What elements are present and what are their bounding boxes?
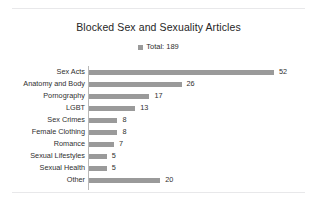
bar-row: Anatomy and Body26	[0, 78, 317, 90]
plot-area: Sex Acts52Anatomy and Body26Pornography1…	[0, 62, 317, 190]
chart-title: Blocked Sex and Sexuality Articles	[0, 21, 317, 34]
category-label: Sex Crimes	[0, 114, 85, 126]
bar-row: Sexual Health5	[0, 162, 317, 174]
bar-value-label: 5	[112, 162, 116, 174]
bar-row: Sex Crimes8	[0, 114, 317, 126]
bar-row: Sex Acts52	[0, 66, 317, 78]
bar-value-label: 5	[112, 150, 116, 162]
bar-row: LGBT13	[0, 102, 317, 114]
bar-value-label: 52	[279, 66, 287, 78]
bar-row: Other20	[0, 174, 317, 186]
bar-value-label: 8	[122, 114, 126, 126]
bar-value-label: 17	[154, 90, 162, 102]
category-label: Other	[0, 174, 85, 186]
category-label: Anatomy and Body	[0, 78, 85, 90]
bar	[89, 130, 117, 135]
bar-value-label: 13	[140, 102, 148, 114]
category-label: Pornography	[0, 90, 85, 102]
bar-row: Pornography17	[0, 90, 317, 102]
bar-value-label: 20	[165, 174, 173, 186]
category-label: Sexual Lifestyles	[0, 150, 85, 162]
category-label: Romance	[0, 138, 85, 150]
bar	[89, 142, 114, 147]
category-label: Sex Acts	[0, 66, 85, 78]
category-label: Sexual Health	[0, 162, 85, 174]
chart-figure: Blocked Sex and Sexuality Articles Total…	[0, 0, 317, 208]
bar	[89, 106, 135, 111]
bar	[89, 118, 117, 123]
bar-row: Romance7	[0, 138, 317, 150]
bar-value-label: 7	[119, 138, 123, 150]
bar	[89, 166, 107, 171]
bar-value-label: 26	[187, 78, 195, 90]
divider-top	[12, 8, 305, 9]
bar	[89, 178, 160, 183]
bar-row: Female Clothing8	[0, 126, 317, 138]
bar-row: Sexual Lifestyles5	[0, 150, 317, 162]
legend-swatch-icon	[138, 45, 143, 50]
bar-value-label: 8	[122, 126, 126, 138]
chart-legend: Total: 189	[0, 42, 317, 52]
bar	[89, 82, 182, 87]
bar	[89, 154, 107, 159]
legend-label-total: Total: 189	[146, 42, 179, 52]
bar	[89, 94, 149, 99]
bar	[89, 70, 274, 75]
category-label: LGBT	[0, 102, 85, 114]
divider-bottom	[12, 192, 305, 193]
category-label: Female Clothing	[0, 126, 85, 138]
